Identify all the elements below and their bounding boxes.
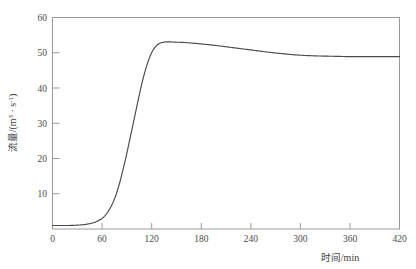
y-axis-title-middot: · s <box>7 103 18 115</box>
x-tick-label: 420 <box>392 234 407 244</box>
y-axis-title-name: 流量 <box>7 132 18 152</box>
x-tick-label: 120 <box>145 234 160 244</box>
y-axis-ticks <box>53 18 60 194</box>
y-axis-tick-labels: 60 50 40 30 20 10 <box>38 13 48 199</box>
y-axis-title: 流量/(m3 · s-1) <box>7 94 20 153</box>
y-tick-label: 10 <box>38 189 48 199</box>
svg-text:流量/(m3 · s-1): 流量/(m3 · s-1) <box>7 94 20 153</box>
y-tick-label: 20 <box>38 154 48 164</box>
x-axis-title-name: 时间 <box>321 252 341 263</box>
chart-figure: 60 50 40 30 20 10 0 60 120 180 240 300 3… <box>0 0 416 269</box>
x-tick-label: 360 <box>343 234 358 244</box>
x-axis-tick-labels: 0 60 120 180 240 300 360 420 <box>50 234 407 244</box>
flow-rate-line-chart: 60 50 40 30 20 10 0 60 120 180 240 300 3… <box>0 0 416 269</box>
x-tick-label: 60 <box>97 234 107 244</box>
y-axis-title-open: /(m <box>7 118 19 132</box>
y-tick-label: 30 <box>38 119 48 129</box>
x-tick-label: 180 <box>194 234 209 244</box>
x-tick-label: 240 <box>244 234 259 244</box>
data-series-line <box>53 42 400 226</box>
y-axis-title-close: ) <box>7 94 19 97</box>
x-axis-ticks <box>102 223 350 229</box>
y-tick-label: 60 <box>38 13 48 23</box>
svg-text:时间/min: 时间/min <box>321 252 359 263</box>
plot-frame <box>53 18 400 230</box>
y-tick-label: 40 <box>38 84 48 94</box>
x-axis-title: 时间/min <box>321 252 359 263</box>
x-tick-label: 0 <box>50 234 55 244</box>
x-tick-label: 300 <box>293 234 308 244</box>
y-tick-label: 50 <box>38 48 48 58</box>
x-axis-title-unit: /min <box>341 252 359 263</box>
